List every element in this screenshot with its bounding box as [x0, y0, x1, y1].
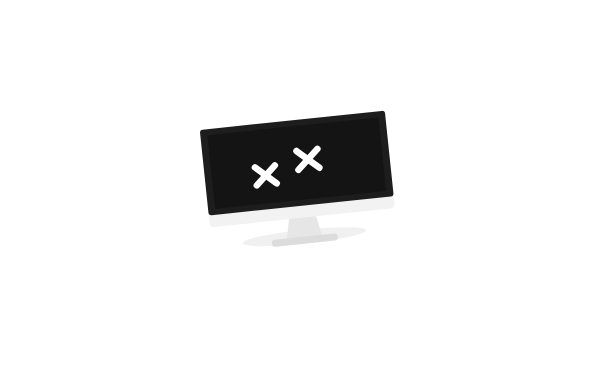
illustration-canvas: Computer virus infection illustration	[0, 0, 613, 368]
virus-scene-svg	[0, 0, 613, 368]
